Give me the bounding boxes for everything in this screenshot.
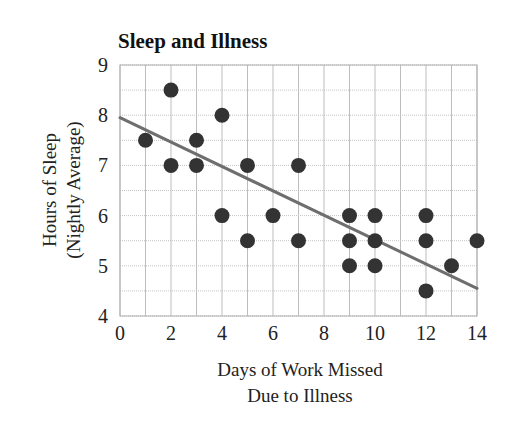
data-point [215,208,230,223]
data-point [368,258,383,273]
x-tick-label: 4 [217,322,227,344]
x-tick-label: 6 [268,322,278,344]
x-tick-label: 8 [319,322,329,344]
data-point [342,208,357,223]
data-point [368,208,383,223]
data-point [419,208,434,223]
data-point [342,233,357,248]
y-tick-label: 4 [98,305,108,327]
y-tick-label: 8 [98,104,108,126]
x-tick-label: 12 [416,322,436,344]
y-axis-label-sub: (Nightly Average) [63,121,85,258]
y-tick-label: 7 [98,154,108,176]
x-tick-label: 2 [166,322,176,344]
y-axis-label-line1: Hours of Sleep [39,133,60,247]
x-tick-label: 14 [467,322,487,344]
y-axis-label: Hours of Sleep [39,133,60,247]
x-tick-label: 0 [115,322,125,344]
chart-title: Sleep and Illness [118,29,267,53]
y-axis-ticks: 456789 [98,54,108,327]
data-point [164,83,179,98]
data-point [444,258,459,273]
y-axis-label-line2: (Nightly Average) [63,121,85,258]
x-axis-ticks: 02468101214 [115,322,487,344]
data-point [419,283,434,298]
data-point [470,233,485,248]
x-axis-label-line2: Due to Illness [247,385,353,406]
data-point [215,108,230,123]
data-point [164,158,179,173]
data-point [291,158,306,173]
scatter-chart: Sleep and Illness 02468101214 456789 Hou… [0,0,522,425]
data-point [189,158,204,173]
data-point [240,233,255,248]
y-tick-label: 5 [98,255,108,277]
x-axis-label-line1: Days of Work Missed [217,359,383,380]
data-point [266,208,281,223]
y-tick-label: 9 [98,54,108,76]
plot-grid [120,65,477,316]
data-point [368,233,383,248]
data-point [189,133,204,148]
data-point [342,258,357,273]
y-tick-label: 6 [98,205,108,227]
data-point [240,158,255,173]
x-tick-label: 10 [365,322,385,344]
data-point [419,233,434,248]
data-point [138,133,153,148]
data-point [291,233,306,248]
